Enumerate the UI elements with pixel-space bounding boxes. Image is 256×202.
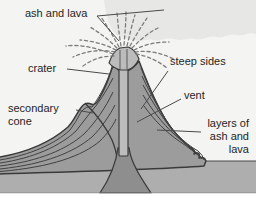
volcano-illustration xyxy=(0,0,256,201)
page-margin-bottom xyxy=(0,194,256,202)
label-steep-sides: steep sides xyxy=(170,55,226,68)
label-crater: crater xyxy=(28,62,56,75)
label-secondary-cone: secondary cone xyxy=(8,102,76,128)
volcano-diagram: ash and lava crater steep sides vent sec… xyxy=(0,0,256,201)
label-layers-of-ash-and-lava: layers of ash and lava xyxy=(197,117,249,156)
label-ash-and-lava: ash and lava xyxy=(25,7,87,20)
vent-channel xyxy=(119,66,128,156)
label-vent: vent xyxy=(184,89,205,102)
